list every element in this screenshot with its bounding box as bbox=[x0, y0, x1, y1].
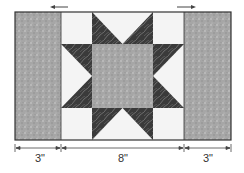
dimension-lines bbox=[15, 144, 231, 152]
dimension-label-right: 3" bbox=[193, 152, 223, 164]
dimension-label-left: 3" bbox=[25, 152, 55, 164]
right-strip bbox=[184, 12, 231, 140]
left-strip bbox=[15, 12, 61, 140]
arrow-left-icon bbox=[50, 5, 68, 9]
arrow-right-icon bbox=[177, 5, 196, 9]
quilt-diagram bbox=[0, 0, 244, 173]
star-center bbox=[92, 44, 153, 108]
dimension-label-center: 8" bbox=[108, 152, 138, 164]
